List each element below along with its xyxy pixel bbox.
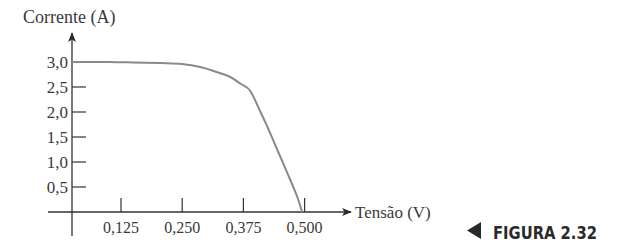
y-axis-ticks: 0,51,01,52,02,53,0 bbox=[47, 53, 86, 197]
x-axis-ticks: 0,1250,2500,3750,500 bbox=[103, 198, 323, 236]
x-tick-label: 0,125 bbox=[103, 219, 139, 236]
x-tick-label: 0,375 bbox=[225, 219, 261, 236]
iv-curve-line bbox=[72, 62, 302, 212]
iv-curve-chart: Corrente (A) 0,51,01,52,02,53,0 0,1250,2… bbox=[0, 0, 625, 249]
y-tick-label: 2,5 bbox=[47, 78, 68, 97]
y-tick-label: 1,5 bbox=[47, 128, 68, 147]
x-axis-label: Tensão (V) bbox=[355, 203, 431, 222]
figure-label: FIGURA 2.32 bbox=[493, 223, 597, 243]
y-tick-label: 0,5 bbox=[47, 178, 68, 197]
x-tick-label: 0,500 bbox=[287, 219, 323, 236]
y-tick-label: 1,0 bbox=[47, 153, 68, 172]
y-tick-label: 3,0 bbox=[47, 53, 68, 72]
left-triangle-icon bbox=[467, 222, 481, 239]
y-axis-label: Corrente (A) bbox=[23, 7, 115, 28]
y-tick-label: 2,0 bbox=[47, 103, 68, 122]
x-tick-label: 0,250 bbox=[164, 219, 200, 236]
